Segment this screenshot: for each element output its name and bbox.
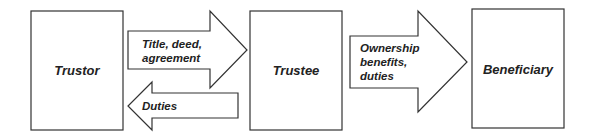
arrow-label-title-deed: Title, deed, agreement [142, 37, 202, 65]
arrow-label-line: Duties [142, 99, 177, 113]
arrow-label-line: benefits, [360, 55, 419, 69]
arrow-label-line: agreement [142, 51, 202, 65]
arrow-label-duties: Duties [142, 99, 177, 113]
trustee-label: Trustee [250, 63, 342, 78]
arrow-label-line: duties [360, 69, 419, 83]
arrow-label-line: Title, deed, [142, 37, 202, 51]
beneficiary-label: Beneficiary [472, 62, 564, 77]
arrow-label-ownership: Ownership benefits, duties [360, 41, 419, 83]
trustor-label: Trustor [31, 63, 123, 78]
arrow-label-line: Ownership [360, 41, 419, 55]
